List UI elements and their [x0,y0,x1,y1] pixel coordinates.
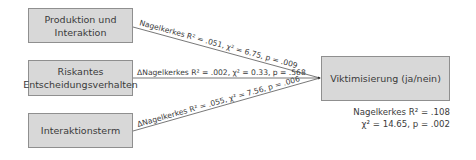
edge-line-3 [133,78,320,131]
model-stats: Nagelkerkes R² = .108 χ² = 14.65, p = .0… [353,106,450,130]
edge-label-3: ΔNagelkerkes R² = .055, χ² = 7.56, p = .… [136,74,301,129]
path-lines: Nagelkerkes R² = .051, χ² = 6.75, p = .0… [0,0,476,160]
model-chi2: χ² = 14.65, p = .002 [353,118,450,130]
model-r2: Nagelkerkes R² = .108 [353,106,450,118]
edge-label-2: ΔNagelkerkes R² = .002, χ² = 0.33, p = .… [137,68,306,77]
edge-label-1: Nagelkerkes R² = .051, χ² = 6.75, p = .0… [138,18,298,70]
